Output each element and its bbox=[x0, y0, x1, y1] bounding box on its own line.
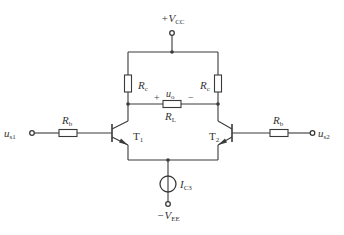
ic3-label: IC3 bbox=[179, 178, 192, 192]
us1-label: us1 bbox=[4, 127, 16, 141]
rl-resistor-icon bbox=[163, 101, 181, 108]
rc-right-resistor-icon bbox=[215, 75, 222, 92]
vcc-supply: +VCC bbox=[161, 12, 185, 54]
rb-right-resistor-icon bbox=[270, 130, 288, 137]
transistor-t2-icon bbox=[218, 121, 232, 160]
vee-label: −VEE bbox=[157, 209, 180, 223]
current-source-icon bbox=[160, 160, 176, 202]
t1-label: T1 bbox=[133, 130, 144, 144]
us2-label: us2 bbox=[318, 127, 330, 141]
output-minus-sign: − bbox=[188, 92, 194, 103]
output-voltage-label: uo bbox=[166, 88, 175, 101]
us1-terminal-icon bbox=[30, 131, 35, 136]
transistor-t1-icon bbox=[112, 121, 128, 160]
vcc-terminal-icon bbox=[170, 31, 175, 36]
vcc-label: +VCC bbox=[161, 12, 185, 26]
rc-left-resistor-icon bbox=[125, 75, 132, 92]
rb-right-label: Rb bbox=[272, 114, 284, 128]
input-us1: us1 Rb bbox=[4, 114, 112, 141]
input-us2: us2 Rb bbox=[232, 114, 330, 141]
us2-terminal-icon bbox=[310, 131, 315, 136]
rc-left-label: Rc bbox=[137, 79, 148, 93]
rb-left-label: Rb bbox=[61, 114, 73, 128]
differential-amplifier-schematic: +VCC Rc Rc RL + − uo T1 T2 bbox=[0, 0, 344, 235]
t2-label: T2 bbox=[209, 130, 220, 144]
vee-terminal-icon bbox=[166, 202, 171, 207]
rc-right-label: Rc bbox=[199, 79, 210, 93]
rb-left-resistor-icon bbox=[59, 130, 77, 137]
rl-label: RL bbox=[164, 110, 176, 124]
output-plus-sign: + bbox=[154, 92, 160, 103]
